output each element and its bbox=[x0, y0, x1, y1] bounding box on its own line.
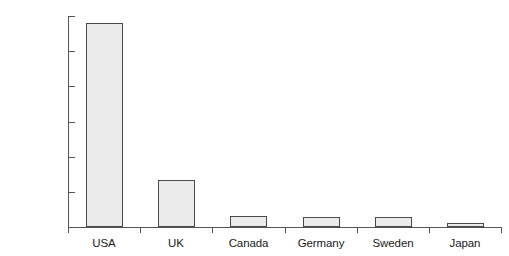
bar-canada bbox=[230, 216, 267, 227]
y-axis-tick bbox=[69, 157, 75, 158]
x-axis-tick bbox=[140, 228, 141, 233]
x-axis-tick bbox=[212, 228, 213, 233]
bar-sweden bbox=[375, 217, 412, 227]
x-axis-tick bbox=[285, 228, 286, 233]
x-axis-label-sweden: Sweden bbox=[357, 237, 429, 249]
y-axis-tick bbox=[69, 227, 75, 228]
bar-chart: 600mn 500mn 400mn 300mn 200mn 100mn 0 bbox=[0, 0, 509, 256]
plot-area: 600mn 500mn 400mn 300mn 200mn 100mn 0 bbox=[68, 14, 502, 227]
x-axis-label-germany: Germany bbox=[285, 237, 357, 249]
y-axis-tick bbox=[69, 192, 75, 193]
bar-japan bbox=[447, 223, 484, 227]
x-axis-tick bbox=[357, 228, 358, 233]
y-axis-tick bbox=[69, 16, 75, 17]
bar-usa bbox=[86, 23, 123, 227]
x-axis-label-usa: USA bbox=[68, 237, 140, 249]
x-axis-tick bbox=[68, 228, 69, 233]
x-axis-label-uk: UK bbox=[140, 237, 212, 249]
x-axis-label-japan: Japan bbox=[429, 237, 501, 249]
x-axis-label-canada: Canada bbox=[212, 237, 285, 249]
bar-uk bbox=[158, 180, 195, 227]
x-axis-tick bbox=[429, 228, 430, 233]
y-axis-tick bbox=[69, 86, 75, 87]
y-axis-tick bbox=[69, 122, 75, 123]
bar-germany bbox=[303, 217, 340, 227]
y-axis-tick bbox=[69, 51, 75, 52]
x-axis-tick bbox=[501, 228, 502, 233]
